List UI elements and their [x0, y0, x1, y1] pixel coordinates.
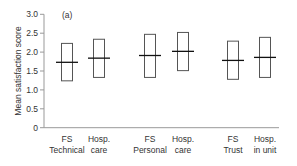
satisfaction-chart: 00.51.01.52.02.53.0Mean satisfaction sco… — [0, 0, 297, 166]
x-tick-label: care — [175, 145, 192, 155]
x-tick-label: Hosp. — [172, 134, 194, 144]
y-tick-label: 1.5 — [26, 66, 38, 76]
y-tick-label: 0 — [33, 123, 38, 133]
y-tick-label: 1.0 — [26, 85, 38, 95]
x-tick-label: FS — [145, 134, 156, 144]
y-tick-label: 2.0 — [26, 47, 38, 57]
panel-label: (a) — [62, 10, 73, 20]
y-tick-label: 3.0 — [26, 9, 38, 19]
x-tick-label: Hosp. — [254, 134, 276, 144]
x-tick-label: FS — [62, 134, 73, 144]
x-tick-label: Personal — [133, 145, 167, 155]
x-tick-label: Technical — [49, 145, 85, 155]
y-axis-label: Mean satisfaction score — [13, 26, 23, 116]
y-tick-label: 0.5 — [26, 104, 38, 114]
x-tick-label: Trust — [223, 145, 243, 155]
chart-svg: 00.51.01.52.02.53.0Mean satisfaction sco… — [0, 0, 297, 166]
x-tick-label: FS — [228, 134, 239, 144]
x-tick-label: in unit — [254, 145, 277, 155]
x-tick-label: care — [91, 145, 108, 155]
y-tick-label: 2.5 — [26, 28, 38, 38]
x-tick-label: Hosp. — [88, 134, 110, 144]
